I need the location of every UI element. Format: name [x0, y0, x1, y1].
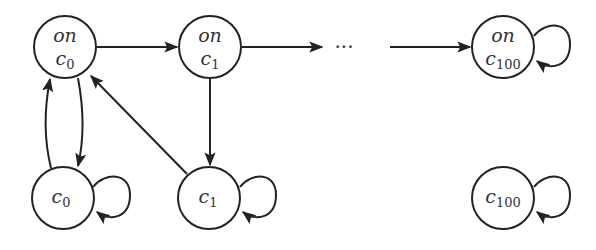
- edge-c1-to-on-c0: [91, 76, 187, 174]
- self-loop-c1: [240, 177, 276, 218]
- node-on-c1-line1: on: [198, 24, 222, 46]
- edge-on-c0-to-c0: [78, 78, 83, 166]
- node-c100: c100: [472, 167, 534, 229]
- node-c1: c1: [178, 167, 240, 229]
- self-loop-on-c100: [534, 26, 570, 67]
- node-on-c0-line1: on: [53, 24, 77, 46]
- node-on-c1: on c1: [179, 16, 241, 78]
- edge-c0-to-on-c0: [46, 79, 51, 168]
- state-diagram: ··· on c0 on c1 on c100 c0 c1 c100: [0, 0, 596, 250]
- node-on-c0: on c0: [34, 16, 96, 78]
- node-c0: c0: [32, 167, 94, 229]
- node-on-c100-line1: on: [491, 24, 515, 46]
- ellipsis: ···: [334, 35, 353, 59]
- self-loop-c100: [534, 177, 570, 218]
- self-loop-c0: [93, 177, 130, 218]
- node-on-c100: on c100: [472, 16, 534, 78]
